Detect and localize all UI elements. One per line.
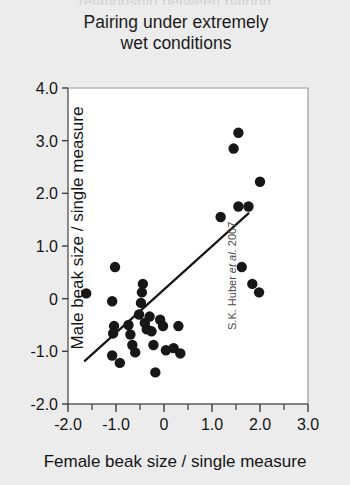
y-tick-label: 3.0	[36, 133, 58, 150]
data-point	[146, 326, 156, 336]
data-point	[228, 143, 238, 153]
data-point	[144, 311, 154, 321]
data-point	[243, 201, 253, 211]
scatter-plot-svg: -2.0-1.001.02.03.0 -2.0-1.001.02.03.04.0	[0, 0, 350, 485]
data-point	[247, 279, 257, 289]
data-point	[175, 348, 185, 358]
x-tick-label: -1.0	[102, 416, 130, 433]
y-tick-label: 2.0	[36, 185, 58, 202]
data-point	[115, 358, 125, 368]
data-point	[158, 321, 168, 331]
data-point	[255, 177, 265, 187]
data-point	[138, 279, 148, 289]
x-tick-label: 0	[160, 416, 169, 433]
x-tick-label: -2.0	[54, 416, 82, 433]
plot-area-background	[68, 88, 308, 404]
y-tick-label: 0	[49, 291, 58, 308]
data-point	[108, 328, 118, 338]
x-axis-title: Female beak size / single measure	[0, 452, 350, 472]
attribution-label: S.K. Huber et al. 2007	[226, 180, 238, 330]
data-point	[123, 320, 133, 330]
y-tick-labels: -2.0-1.001.02.03.04.0	[30, 80, 58, 413]
data-point	[107, 296, 117, 306]
data-point	[107, 350, 117, 360]
attribution-suffix: 2007	[226, 222, 238, 250]
data-point	[148, 340, 158, 350]
y-tick-label: -2.0	[30, 396, 58, 413]
x-tick-label: 2.0	[249, 416, 271, 433]
data-point	[237, 262, 247, 272]
data-point	[125, 329, 135, 339]
attribution-prefix: S.K. Huber	[226, 273, 238, 330]
data-point	[173, 321, 183, 331]
data-point	[254, 287, 264, 297]
x-tick-labels: -2.0-1.001.02.03.0	[54, 416, 319, 433]
x-tick-label: 1.0	[201, 416, 223, 433]
x-tick-label: 3.0	[297, 416, 319, 433]
data-point	[150, 367, 160, 377]
data-point	[215, 212, 225, 222]
y-tick-label: 4.0	[36, 80, 58, 97]
attribution-italic: et al.	[226, 249, 238, 273]
data-point	[110, 262, 120, 272]
y-axis-title: Male beak size / single measure	[68, 68, 88, 388]
data-point	[233, 128, 243, 138]
data-point	[130, 347, 140, 357]
y-tick-label: -1.0	[30, 343, 58, 360]
data-point	[134, 309, 144, 319]
data-point	[136, 298, 146, 308]
figure-container: relationship between pairing Pairing und…	[0, 0, 350, 485]
y-tick-label: 1.0	[36, 238, 58, 255]
